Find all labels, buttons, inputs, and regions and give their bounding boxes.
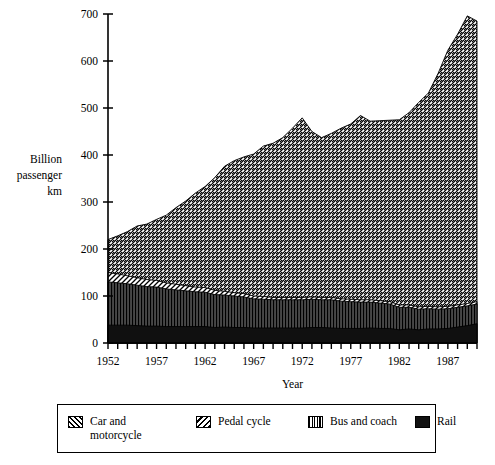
legend-item-rail: Rail (415, 415, 456, 429)
legend-item-bus-and-coach: Bus and coach (308, 415, 397, 429)
y-tick-label: 400 (81, 149, 99, 161)
x-tick-label: 1952 (97, 355, 120, 367)
legend-label: Rail (437, 415, 456, 429)
legend-label: Bus and coach (330, 415, 397, 429)
x-tick-label: 1982 (388, 355, 411, 367)
y-tick-label: 0 (92, 337, 98, 349)
chart-legend: Car and motorcyclePedal cycleBus and coa… (57, 404, 436, 453)
chart-series-areas (108, 16, 477, 343)
chart-plot-area: 0100200300400500600700195219571962196719… (0, 0, 495, 395)
legend-item-car-and-motorcycle: Car and motorcycle (68, 415, 142, 442)
x-tick-label: 1962 (194, 355, 217, 367)
x-tick-label: 1972 (291, 355, 314, 367)
legend-item-pedal-cycle: Pedal cycle (196, 415, 271, 429)
x-tick-label: 1967 (242, 355, 265, 367)
y-tick-label: 200 (81, 243, 99, 255)
legend-label: Pedal cycle (218, 415, 271, 429)
x-tick-label: 1977 (339, 355, 362, 367)
stacked-area-chart: 0100200300400500600700195219571962196719… (0, 0, 495, 395)
y-tick-label: 300 (81, 196, 99, 208)
y-axis-title: Billionpassengerkm (17, 153, 63, 197)
legend-swatch-solid-black-icon (415, 416, 430, 428)
y-tick-label: 500 (81, 102, 99, 114)
legend-swatch-vertical-lines-icon (308, 416, 323, 428)
y-tick-label: 600 (81, 55, 99, 67)
chart-page: 0100200300400500600700195219571962196719… (0, 0, 495, 465)
y-tick-label: 700 (81, 8, 99, 20)
legend-swatch-forwardslash-hatch-icon (68, 416, 83, 428)
legend-label: Car and motorcycle (90, 415, 142, 442)
y-tick-label: 100 (81, 290, 99, 302)
x-axis-title: Year (282, 378, 303, 390)
x-tick-label: 1987 (436, 355, 459, 367)
legend-swatch-backslash-hatch-icon (196, 416, 211, 428)
x-tick-label: 1957 (145, 355, 168, 367)
